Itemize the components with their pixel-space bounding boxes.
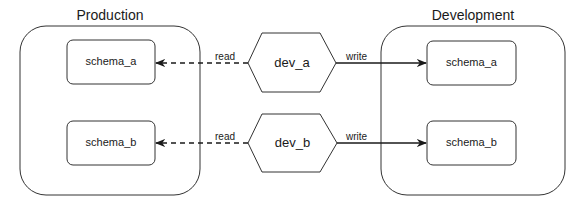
prod-schema-b-label: schema_b bbox=[67, 136, 155, 148]
dev-schema-a-label: schema_a bbox=[427, 56, 516, 68]
dev-b-read-label: read bbox=[215, 131, 235, 142]
prod-schema-a-label: schema_a bbox=[67, 55, 155, 67]
dev-b-write-label: write bbox=[346, 131, 367, 142]
production-title: Production bbox=[20, 7, 200, 23]
dev-b-label: dev_b bbox=[248, 135, 337, 150]
dev-a-label: dev_a bbox=[248, 55, 336, 70]
dev-a-read-label: read bbox=[215, 51, 235, 62]
diagram-canvas bbox=[0, 0, 584, 208]
dev-schema-b-label: schema_b bbox=[427, 136, 516, 148]
development-title: Development bbox=[381, 7, 565, 23]
dev-a-write-label: write bbox=[346, 51, 367, 62]
